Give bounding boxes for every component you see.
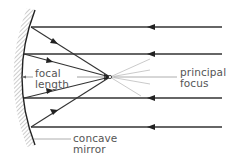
concave-mirror-label-line-2: mirror — [73, 144, 117, 155]
arrow-icon — [50, 38, 58, 44]
focal-length-label-line-2: length — [35, 79, 69, 90]
principal-focus-point — [108, 75, 111, 78]
diverging-rays — [110, 59, 150, 96]
arrow-left-icon — [147, 124, 155, 130]
arrow-left-icon — [147, 24, 155, 30]
arrow-left-icon — [147, 51, 155, 57]
concave-mirror-label: concave mirror — [73, 133, 117, 155]
principal-focus-label: principal focus — [180, 67, 226, 89]
principal-focus-label-line-2: focus — [180, 78, 226, 89]
arrow-icon — [46, 57, 53, 63]
arrow-left-icon — [147, 95, 155, 101]
focal-length-label: focal length — [35, 68, 69, 90]
